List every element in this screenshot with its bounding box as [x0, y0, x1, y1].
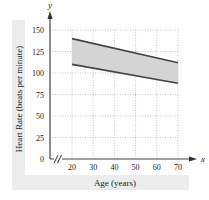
plot-background	[25, 0, 209, 175]
x-tick-label: 20	[68, 163, 76, 172]
x-tick-label: 40	[110, 163, 118, 172]
y-axis-letter: y	[47, 0, 52, 10]
x-tick-label: 60	[153, 163, 161, 172]
x-tick-label: 50	[132, 163, 140, 172]
y-tick-label: 75	[36, 91, 44, 100]
axis-break-icon	[54, 155, 62, 163]
y-axis-label: Heart Rate (beats per minute)	[14, 46, 24, 152]
x-axis-label: Age (years)	[94, 178, 136, 188]
y-tick-label: 125	[32, 48, 44, 57]
heart-rate-chart: y x 0255075100125150 203040506070 Heart …	[0, 0, 209, 200]
x-axis-letter: x	[200, 154, 205, 164]
y-tick-label: 100	[32, 69, 44, 78]
x-tick-label: 70	[174, 163, 182, 172]
y-tick-label: 150	[32, 26, 44, 35]
y-tick-label: 25	[36, 134, 44, 143]
x-tick-label: 30	[89, 163, 97, 172]
y-tick-label: 50	[36, 112, 44, 121]
y-tick-label: 0	[40, 155, 44, 164]
